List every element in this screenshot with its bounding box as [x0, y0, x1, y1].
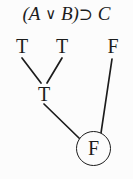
- edge-layer: [0, 0, 133, 179]
- edge-b-to-disjunction: [47, 58, 62, 83]
- truth-tree-diagram: (A ∨ B)⊃ C T T F T F: [0, 0, 133, 179]
- truth-value-c: F: [104, 36, 122, 56]
- truth-value-b: T: [53, 36, 71, 56]
- edge-a-to-disjunction: [22, 58, 41, 83]
- circled-main-connective-value: F: [76, 131, 111, 166]
- truth-value-a: T: [13, 36, 31, 56]
- truth-value-disjunction: T: [35, 84, 53, 104]
- truth-value-conditional: F: [77, 138, 110, 158]
- edge-disjunction-to-conditional: [44, 104, 80, 139]
- edge-c-to-conditional: [101, 59, 112, 133]
